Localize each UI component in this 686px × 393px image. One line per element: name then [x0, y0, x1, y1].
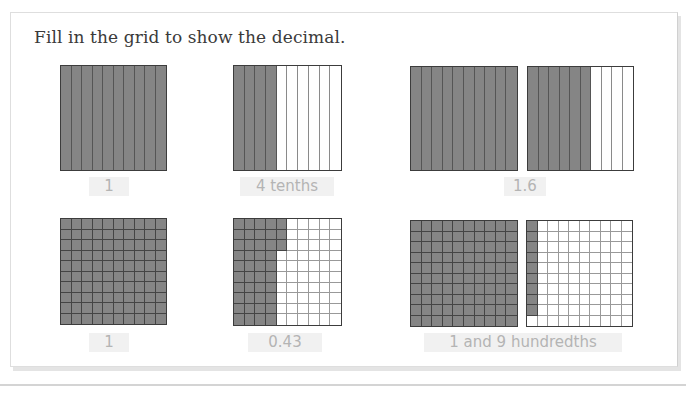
- grid-cell[interactable]: [538, 253, 549, 264]
- grid-cell[interactable]: [601, 242, 612, 253]
- grid-cell[interactable]: [156, 230, 167, 241]
- grid-cell[interactable]: [266, 219, 277, 230]
- grid-cell[interactable]: [464, 242, 475, 253]
- grid-cell[interactable]: [266, 251, 277, 262]
- grid-cell[interactable]: [309, 240, 320, 251]
- grid-cell[interactable]: [234, 272, 245, 283]
- grid-cell[interactable]: [443, 316, 454, 327]
- grid-cell[interactable]: [411, 274, 422, 285]
- grid-cell[interactable]: [548, 274, 559, 285]
- grid-cell[interactable]: [581, 67, 592, 170]
- grid-cell[interactable]: [612, 67, 623, 170]
- grid-cell[interactable]: [156, 272, 167, 283]
- grid-cell[interactable]: [93, 230, 104, 241]
- grid-cell[interactable]: [61, 66, 72, 170]
- grid-cell[interactable]: [432, 274, 443, 285]
- grid-cell[interactable]: [124, 293, 135, 304]
- grid-cell[interactable]: [124, 219, 135, 230]
- grid-cell[interactable]: [538, 274, 549, 285]
- grid-cell[interactable]: [320, 272, 331, 283]
- grid-cell[interactable]: [234, 251, 245, 262]
- answer-label-b[interactable]: 4 tenths: [240, 177, 334, 196]
- grid-cell[interactable]: [135, 282, 146, 293]
- grid-cell[interactable]: [61, 303, 72, 314]
- grid-cell[interactable]: [496, 242, 507, 253]
- grid-cell[interactable]: [277, 283, 288, 294]
- grid-cell[interactable]: [135, 251, 146, 262]
- grid-cell[interactable]: [82, 251, 93, 262]
- grid-cell[interactable]: [464, 232, 475, 243]
- grid-cell[interactable]: [622, 242, 633, 253]
- grid-cell[interactable]: [548, 221, 559, 232]
- grid-cell[interactable]: [453, 305, 464, 316]
- grid-cell[interactable]: [124, 303, 135, 314]
- grid-cell[interactable]: [114, 282, 125, 293]
- grid-cell[interactable]: [266, 66, 277, 170]
- grid-cell[interactable]: [309, 251, 320, 262]
- grid-cell[interactable]: [277, 66, 288, 170]
- grid-cell[interactable]: [496, 295, 507, 306]
- grid-cell[interactable]: [298, 261, 309, 272]
- grid-cell[interactable]: [61, 251, 72, 262]
- grid-cell[interactable]: [266, 283, 277, 294]
- grid-cell[interactable]: [135, 272, 146, 283]
- grid-cell[interactable]: [255, 230, 266, 241]
- grid-cell[interactable]: [245, 314, 256, 325]
- grid-cell[interactable]: [475, 242, 486, 253]
- grid-cell[interactable]: [569, 263, 580, 274]
- grid-cell[interactable]: [234, 314, 245, 325]
- grid-cell[interactable]: [527, 242, 538, 253]
- grid-cell[interactable]: [72, 303, 83, 314]
- grid-cell[interactable]: [114, 240, 125, 251]
- grid-cell[interactable]: [411, 232, 422, 243]
- grid-cell[interactable]: [82, 261, 93, 272]
- grid-cell[interactable]: [320, 314, 331, 325]
- grid-cell[interactable]: [464, 253, 475, 264]
- grid-cell[interactable]: [548, 316, 559, 327]
- grid-cell[interactable]: [496, 221, 507, 232]
- grid-cell[interactable]: [145, 314, 156, 325]
- grid-cell[interactable]: [475, 67, 486, 170]
- grid-cell[interactable]: [464, 305, 475, 316]
- grid-cell[interactable]: [432, 242, 443, 253]
- grid-cell[interactable]: [443, 274, 454, 285]
- grid-cell[interactable]: [496, 284, 507, 295]
- grid-cell[interactable]: [266, 272, 277, 283]
- grid-cell[interactable]: [475, 232, 486, 243]
- grid-cell[interactable]: [245, 304, 256, 315]
- grid-cell[interactable]: [245, 240, 256, 251]
- grid-cell[interactable]: [527, 305, 538, 316]
- grid-cell[interactable]: [156, 293, 167, 304]
- grid-cell[interactable]: [411, 295, 422, 306]
- grid-cell[interactable]: [475, 316, 486, 327]
- grid-cell[interactable]: [61, 293, 72, 304]
- grid-cell[interactable]: [422, 295, 433, 306]
- grid-cell[interactable]: [135, 219, 146, 230]
- grid-cell[interactable]: [72, 230, 83, 241]
- grid-cell[interactable]: [287, 283, 298, 294]
- grid-cell[interactable]: [590, 242, 601, 253]
- grid-cell[interactable]: [309, 304, 320, 315]
- grid-cell[interactable]: [145, 240, 156, 251]
- grid-cell[interactable]: [475, 305, 486, 316]
- grid-cell[interactable]: [287, 230, 298, 241]
- grid-cell[interactable]: [548, 305, 559, 316]
- grid-cell[interactable]: [298, 293, 309, 304]
- grid-cell[interactable]: [277, 304, 288, 315]
- grid-cell[interactable]: [330, 304, 341, 315]
- grid-cell[interactable]: [601, 221, 612, 232]
- grid-cell[interactable]: [443, 232, 454, 243]
- grid-cell[interactable]: [559, 295, 570, 306]
- grid-cell[interactable]: [506, 242, 517, 253]
- grid-cell[interactable]: [103, 314, 114, 325]
- grid-cell[interactable]: [72, 261, 83, 272]
- grid-cell[interactable]: [422, 263, 433, 274]
- grid-cell[interactable]: [245, 293, 256, 304]
- grid-cell[interactable]: [559, 263, 570, 274]
- grid-cell[interactable]: [432, 295, 443, 306]
- grid-cell[interactable]: [549, 67, 560, 170]
- grid-cell[interactable]: [114, 303, 125, 314]
- grid-cell[interactable]: [145, 219, 156, 230]
- grid-cell[interactable]: [559, 316, 570, 327]
- grid-cell[interactable]: [330, 272, 341, 283]
